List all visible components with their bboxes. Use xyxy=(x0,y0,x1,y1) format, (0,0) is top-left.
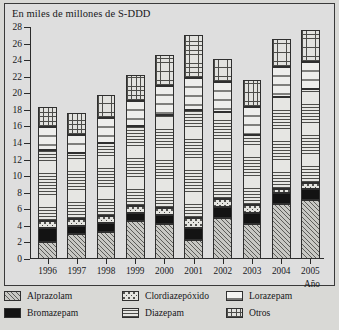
diagonal-hatch-swatch-icon xyxy=(4,291,21,301)
x-tick xyxy=(48,259,49,264)
horizontal-lines-swatch-icon xyxy=(122,308,139,318)
bar-segment-diazepam xyxy=(126,126,145,206)
bar-segment-alprazolam xyxy=(184,240,203,259)
x-tick xyxy=(106,259,107,264)
legend-item-bromazepam[interactable]: Bromazepam xyxy=(4,307,78,318)
bar-segment-otros xyxy=(38,107,57,127)
y-tick-label: 8 xyxy=(17,188,22,198)
bar-segment-bromazepam xyxy=(38,228,57,241)
bar-1998 xyxy=(97,95,116,259)
x-tick xyxy=(135,259,136,264)
bar-segment-otros xyxy=(243,80,262,107)
bar-segment-alprazolam xyxy=(243,224,262,259)
x-axis-label: Año xyxy=(304,279,320,289)
bar-segment-diazepam xyxy=(97,143,116,216)
bar-2002 xyxy=(213,59,232,260)
y-tick xyxy=(24,60,30,61)
bar-segment-bromazepam xyxy=(155,215,174,224)
y-tick xyxy=(24,77,30,78)
legend-item-label: Diazepam xyxy=(145,307,184,318)
bar-segment-clordiazepóxido xyxy=(272,189,291,192)
x-tick-label: 2005 xyxy=(301,266,320,276)
legend-item-alprazolam[interactable]: Alprazolam xyxy=(4,290,72,301)
chart-title: En miles de millones de S-DDD xyxy=(12,8,151,19)
chart-legend: AlprazolamClordiazepóxidoLorazepam Broma… xyxy=(4,290,335,327)
x-tick xyxy=(77,259,78,264)
y-tick-label: 24 xyxy=(13,55,23,65)
y-tick xyxy=(24,93,30,94)
bar-segment-diazepam xyxy=(38,150,57,221)
bar-segment-bromazepam xyxy=(184,228,203,240)
bar-segment-alprazolam xyxy=(213,218,232,259)
bar-segment-diazepam xyxy=(272,97,291,190)
bar-segment-alprazolam xyxy=(301,200,320,259)
bar-segment-diazepam xyxy=(67,153,86,219)
bar-segment-bromazepam xyxy=(126,213,145,220)
x-tick-label: 2000 xyxy=(155,266,174,276)
legend-row: AlprazolamClordiazepóxidoLorazepam xyxy=(4,290,335,306)
bar-segment-lorazepam xyxy=(243,107,262,135)
bar-2000 xyxy=(155,55,174,259)
bar-segment-lorazepam xyxy=(38,127,57,149)
bar-segment-bromazepam xyxy=(243,213,262,225)
y-axis xyxy=(30,27,31,259)
legend-item-diazepam[interactable]: Diazepam xyxy=(122,307,184,318)
bar-segment-lorazepam xyxy=(155,86,174,115)
x-tick xyxy=(281,259,282,264)
x-tick xyxy=(194,259,195,264)
bar-segment-otros xyxy=(126,75,145,101)
y-tick xyxy=(24,27,30,28)
grid-crosshatch-swatch-icon xyxy=(226,308,243,318)
bar-1997 xyxy=(67,113,86,259)
dotted-swatch-icon xyxy=(122,291,139,301)
bar-segment-diazepam xyxy=(155,115,174,209)
y-tick-label: 0 xyxy=(17,254,22,264)
x-tick xyxy=(164,259,165,264)
chart-page: En miles de millones de S-DDD 0246810121… xyxy=(0,0,339,330)
x-tick xyxy=(310,259,311,264)
x-tick-label: 1998 xyxy=(97,266,116,276)
y-tick-label: 4 xyxy=(17,221,22,231)
legend-item-label: Bromazepam xyxy=(27,307,78,318)
x-tick-label: 2001 xyxy=(184,266,203,276)
bar-segment-otros xyxy=(184,35,203,78)
bar-2003 xyxy=(243,80,262,259)
y-tick-label: 2 xyxy=(17,237,22,247)
bar-segment-alprazolam xyxy=(97,232,116,259)
y-tick xyxy=(24,160,30,161)
x-tick-label: 2003 xyxy=(243,266,262,276)
bar-segment-lorazepam xyxy=(213,82,232,112)
bar-segment-alprazolam xyxy=(272,204,291,259)
bar-segment-diazepam xyxy=(243,135,262,205)
bar-segment-diazepam xyxy=(184,110,203,218)
bar-segment-otros xyxy=(97,95,116,118)
legend-row: BromazepamDiazepamOtros xyxy=(4,307,335,323)
y-tick xyxy=(24,209,30,210)
x-tick-label: 2004 xyxy=(272,266,291,276)
y-tick-label: 12 xyxy=(13,155,23,165)
bar-segment-clordiazepóxido xyxy=(38,221,57,228)
bar-segment-bromazepam xyxy=(272,193,291,205)
y-tick-label: 16 xyxy=(13,121,23,131)
bar-segment-alprazolam xyxy=(126,221,145,259)
bar-segment-bromazepam xyxy=(213,207,232,219)
bar-segment-lorazepam xyxy=(97,118,116,143)
bar-segment-alprazolam xyxy=(155,224,174,259)
bar-2005 xyxy=(301,30,320,260)
x-tick-label: 1997 xyxy=(68,266,87,276)
bar-segment-alprazolam xyxy=(67,234,86,259)
bar-segment-diazepam xyxy=(213,112,232,200)
bar-segment-lorazepam xyxy=(184,78,203,109)
bar-segment-clordiazepóxido xyxy=(213,199,232,206)
legend-item-otros[interactable]: Otros xyxy=(226,307,270,318)
bar-segment-clordiazepóxido xyxy=(243,205,262,212)
y-tick-label: 20 xyxy=(13,88,23,98)
legend-item-label: Otros xyxy=(249,307,270,318)
y-tick xyxy=(24,44,30,45)
bar-segment-alprazolam xyxy=(38,242,57,259)
bar-segment-lorazepam xyxy=(272,67,291,97)
legend-item-lorazepam[interactable]: Lorazepam xyxy=(226,290,292,301)
legend-item-clordiazepóxido[interactable]: Clordiazepóxido xyxy=(122,290,209,301)
bar-segment-bromazepam xyxy=(67,226,86,234)
bar-segment-diazepam xyxy=(301,89,320,183)
